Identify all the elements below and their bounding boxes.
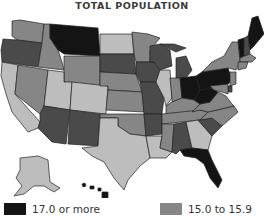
- us-states-map: [0, 10, 264, 198]
- state-wy[interactable]: [64, 56, 100, 86]
- state-fl[interactable]: [180, 148, 222, 188]
- state-ms[interactable]: [160, 124, 174, 152]
- state-nj[interactable]: [230, 72, 236, 86]
- state-nm[interactable]: [68, 110, 100, 146]
- state-sd[interactable]: [100, 54, 136, 74]
- legend-label: 15.0 to 15.9: [188, 203, 252, 215]
- state-wa[interactable]: [12, 20, 44, 43]
- legend-swatch: [160, 203, 182, 215]
- state-ar[interactable]: [144, 114, 162, 136]
- state-co[interactable]: [70, 82, 108, 114]
- choropleth-map: [0, 10, 264, 198]
- map-legend: 17.0 or more 15.0 to 15.9: [0, 201, 264, 216]
- state-nd[interactable]: [100, 34, 134, 54]
- state-ny[interactable]: [202, 42, 240, 72]
- legend-item-15-to-15-9: 15.0 to 15.9: [160, 201, 252, 216]
- state-me[interactable]: [248, 16, 264, 50]
- legend-item-17-plus: 17.0 or more: [4, 201, 100, 216]
- state-az[interactable]: [38, 106, 70, 144]
- state-ak[interactable]: [14, 156, 60, 196]
- legend-swatch: [4, 203, 26, 215]
- state-ks[interactable]: [106, 90, 144, 112]
- legend-label: 17.0 or more: [32, 203, 100, 215]
- state-de[interactable]: [228, 86, 232, 92]
- state-hi[interactable]: [82, 183, 108, 198]
- state-ct[interactable]: [238, 62, 248, 70]
